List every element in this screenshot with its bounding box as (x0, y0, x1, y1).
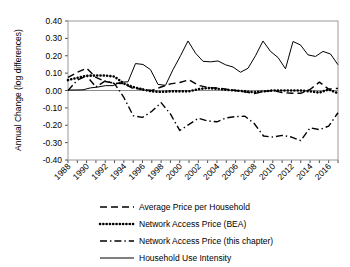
legend-label-2: Network Access Price (BEA) (139, 219, 246, 229)
x-tick-label: 2014 (294, 161, 315, 182)
x-tick-label: 2012 (275, 161, 296, 182)
y-tick-label: 0.10 (45, 68, 62, 78)
y-tick-label: -0.30 (43, 138, 63, 148)
y-tick-label: -0.40 (43, 155, 63, 165)
x-tick-label: 1998 (145, 161, 166, 182)
x-tick-label: 2004 (201, 161, 222, 182)
x-tick-label: 2010 (257, 161, 278, 182)
x-tick-label: 2006 (220, 161, 241, 182)
legend-label-3: Network Access Price (this chapter) (139, 236, 273, 246)
y-tick-label: -0.10 (43, 103, 63, 113)
legend-label-1: Average Price per Household (139, 202, 250, 212)
y-tick-label: 0.20 (45, 51, 62, 61)
x-tick-label: 1994 (108, 161, 129, 182)
y-tick-label: 0.00 (45, 86, 62, 96)
legend-label-4: Household Use Intensity (139, 253, 232, 263)
x-axis-ticks: 1988199019921994199619982000200220042006… (52, 160, 338, 182)
x-tick-label: 2016 (313, 161, 334, 182)
x-tick-label: 1996 (126, 161, 147, 182)
y-axis-title: Annual Change (log differences) (13, 29, 23, 151)
x-tick-label: 2000 (164, 161, 185, 182)
chart-legend: Average Price per HouseholdNetwork Acces… (100, 202, 273, 263)
x-tick-label: 2008 (238, 161, 259, 182)
y-axis-ticks: 0.400.300.200.100.00-0.10-0.20-0.30-0.40 (43, 16, 68, 165)
x-tick-label: 1992 (89, 161, 110, 182)
chart-figure: Annual Change (log differences) 0.400.30… (0, 0, 350, 267)
y-axis-title-group: Annual Change (log differences) (13, 29, 23, 151)
x-tick-label: 2002 (182, 161, 203, 182)
y-tick-label: 0.40 (45, 16, 62, 26)
x-tick-label: 1990 (71, 161, 92, 182)
line-chart: Annual Change (log differences) 0.400.30… (0, 0, 350, 267)
y-tick-label: 0.30 (45, 33, 62, 43)
y-tick-label: -0.20 (43, 120, 63, 130)
